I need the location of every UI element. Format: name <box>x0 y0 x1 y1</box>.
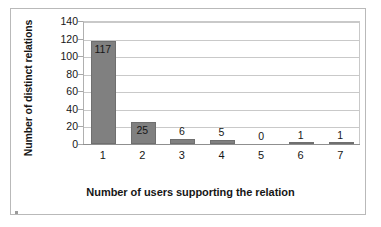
y-axis-tick-label: 140 <box>48 16 78 27</box>
y-axis-tick-mark <box>78 21 83 22</box>
gridline <box>84 40 359 41</box>
y-axis-tick-label: 60 <box>48 86 78 97</box>
bar-value-label: 0 <box>258 131 264 142</box>
x-axis-tick-label: 3 <box>179 150 185 161</box>
y-axis-tick-label: 80 <box>48 68 78 79</box>
y-axis-tick-mark <box>78 74 83 75</box>
bar-value-label: 6 <box>179 126 185 137</box>
bar-chart-figure: Number of distinct relations 14012010080… <box>0 0 381 227</box>
scan-artifact-speck <box>15 211 18 214</box>
y-axis-tick-label: 20 <box>48 121 78 132</box>
y-axis-tick-label: 40 <box>48 104 78 115</box>
x-axis-tick-label: 7 <box>337 150 343 161</box>
x-axis-title: Number of users supporting the relation <box>0 186 381 198</box>
bar-value-label: 5 <box>219 127 225 138</box>
x-axis-tick-label: 6 <box>298 150 304 161</box>
gridline <box>84 110 359 111</box>
x-axis-tick-label: 1 <box>100 150 106 161</box>
x-axis-tick-label: 4 <box>218 150 224 161</box>
y-axis-tick-label: 120 <box>48 33 78 44</box>
y-axis-tick-label: 100 <box>48 51 78 62</box>
gridline <box>84 22 359 23</box>
y-axis-tick-mark <box>78 39 83 40</box>
bar[interactable] <box>91 41 116 144</box>
gridline <box>84 75 359 76</box>
x-axis-tick-label: 5 <box>258 150 264 161</box>
y-axis-tick-mark <box>78 56 83 57</box>
y-axis-tick-label: 0 <box>48 139 78 150</box>
y-axis-tick-mark <box>78 109 83 110</box>
gridline <box>84 92 359 93</box>
bar-value-label: 25 <box>137 125 149 136</box>
x-axis-line <box>83 144 360 145</box>
y-axis-tick-mark <box>78 91 83 92</box>
y-axis-tick-mark <box>78 144 83 145</box>
x-axis-tick-label: 2 <box>139 150 145 161</box>
gridline <box>84 57 359 58</box>
bar-value-label: 1 <box>298 130 304 141</box>
bar-value-label: 117 <box>94 44 111 55</box>
y-axis-title: Number of distinct relations <box>22 8 34 168</box>
bar-value-label: 1 <box>337 130 343 141</box>
y-axis-tick-mark <box>78 126 83 127</box>
